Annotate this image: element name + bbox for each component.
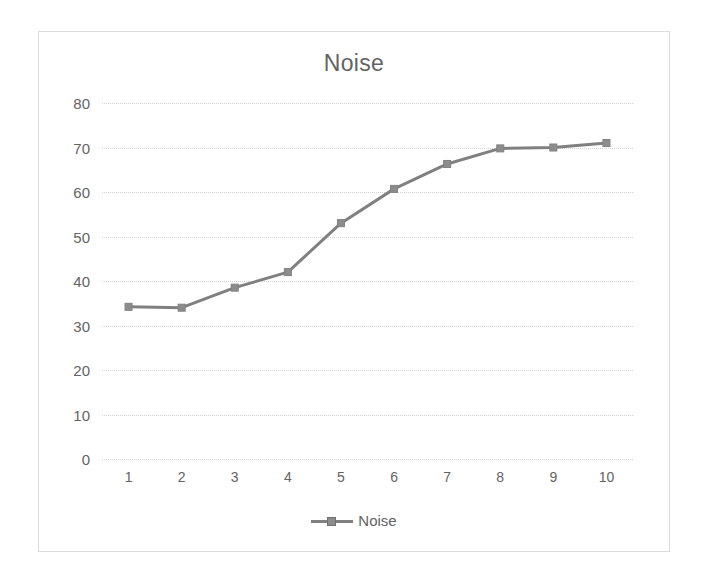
y-axis-tick-label: 10 — [73, 406, 90, 423]
x-axis-tick-label: 6 — [390, 469, 398, 485]
y-axis-tick-label: 30 — [73, 317, 90, 334]
x-axis-tick-label: 3 — [231, 469, 239, 485]
series-noise — [102, 103, 633, 459]
legend-label-noise: Noise — [358, 512, 396, 529]
x-axis-tick-label: 8 — [496, 469, 504, 485]
chart-legend: Noise — [39, 512, 669, 529]
plot-area: 01020304050607080 12345678910 — [102, 103, 633, 459]
y-axis-tick-label: 80 — [73, 95, 90, 112]
x-axis-tick-label: 2 — [178, 469, 186, 485]
data-point-marker — [603, 140, 610, 147]
data-point-marker — [497, 145, 504, 152]
data-point-marker — [391, 185, 398, 192]
x-axis-tick-label: 1 — [125, 469, 133, 485]
data-point-marker — [337, 220, 344, 227]
data-point-marker — [550, 144, 557, 151]
data-point-marker — [125, 303, 132, 310]
data-point-marker — [178, 304, 185, 311]
y-axis-tick-label: 50 — [73, 228, 90, 245]
y-axis-tick-label: 70 — [73, 139, 90, 156]
legend-marker-icon — [311, 515, 353, 527]
gridline — [102, 459, 633, 460]
x-axis-tick-label: 10 — [599, 469, 615, 485]
data-point-marker — [444, 160, 451, 167]
x-axis-tick-label: 5 — [337, 469, 345, 485]
x-axis-tick-label: 9 — [549, 469, 557, 485]
y-axis-tick-label: 40 — [73, 273, 90, 290]
series-line-noise — [129, 143, 607, 308]
data-point-marker — [284, 269, 291, 276]
x-axis-tick-label: 7 — [443, 469, 451, 485]
y-axis-tick-label: 20 — [73, 362, 90, 379]
chart-title: Noise — [39, 50, 669, 77]
data-point-marker — [231, 284, 238, 291]
y-axis-tick-label: 0 — [82, 451, 90, 468]
y-axis-tick-label: 60 — [73, 184, 90, 201]
chart-frame: Noise 01020304050607080 12345678910 Nois… — [38, 31, 670, 552]
x-axis-tick-label: 4 — [284, 469, 292, 485]
